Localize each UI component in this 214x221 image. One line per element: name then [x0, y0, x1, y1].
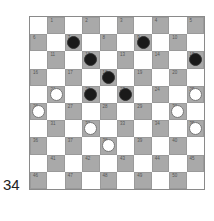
- light-square: [100, 17, 117, 34]
- black-man-icon[interactable]: [84, 88, 97, 101]
- square-7[interactable]: 7: [65, 34, 82, 51]
- light-square: [187, 34, 204, 51]
- black-man-icon[interactable]: [84, 53, 97, 66]
- square-18[interactable]: 18: [100, 69, 117, 86]
- light-square: [47, 69, 64, 86]
- square-23[interactable]: 23: [117, 86, 134, 103]
- square-33[interactable]: 33: [117, 120, 134, 137]
- square-6[interactable]: 6: [30, 34, 47, 51]
- square-28[interactable]: 28: [100, 103, 117, 120]
- light-square: [134, 86, 151, 103]
- black-man-icon[interactable]: [137, 36, 150, 49]
- light-square: [82, 34, 99, 51]
- light-square: [117, 172, 134, 189]
- square-8[interactable]: 8: [100, 34, 117, 51]
- square-31[interactable]: 31: [47, 120, 64, 137]
- white-man-icon[interactable]: [84, 122, 97, 135]
- square-16[interactable]: 16: [30, 69, 47, 86]
- square-number: 19: [137, 71, 142, 76]
- square-21[interactable]: 21: [47, 86, 64, 103]
- square-13[interactable]: 13: [117, 51, 134, 68]
- square-36[interactable]: 36: [30, 137, 47, 154]
- square-24[interactable]: 24: [152, 86, 169, 103]
- light-square: [100, 120, 117, 137]
- light-square: [82, 103, 99, 120]
- square-11[interactable]: 11: [47, 51, 64, 68]
- square-number: 11: [50, 53, 55, 58]
- square-20[interactable]: 20: [169, 69, 186, 86]
- white-man-icon[interactable]: [32, 105, 45, 118]
- square-14[interactable]: 14: [152, 51, 169, 68]
- white-man-icon[interactable]: [189, 122, 202, 135]
- light-square: [100, 86, 117, 103]
- square-48[interactable]: 48: [100, 172, 117, 189]
- light-square: [82, 137, 99, 154]
- light-square: [65, 155, 82, 172]
- square-9[interactable]: 9: [134, 34, 151, 51]
- square-3[interactable]: 3: [117, 17, 134, 34]
- square-number: 36: [33, 139, 38, 144]
- square-number: 27: [68, 105, 73, 110]
- square-number: 3: [120, 19, 123, 24]
- square-49[interactable]: 49: [134, 172, 151, 189]
- square-30[interactable]: 30: [169, 103, 186, 120]
- light-square: [152, 172, 169, 189]
- light-square: [187, 137, 204, 154]
- square-39[interactable]: 39: [134, 137, 151, 154]
- square-42[interactable]: 42: [82, 155, 99, 172]
- black-man-icon[interactable]: [102, 71, 115, 84]
- square-2[interactable]: 2: [82, 17, 99, 34]
- light-square: [117, 103, 134, 120]
- square-40[interactable]: 40: [169, 137, 186, 154]
- white-man-icon[interactable]: [50, 88, 63, 101]
- light-square: [187, 103, 204, 120]
- square-number: 6: [33, 36, 36, 41]
- square-41[interactable]: 41: [47, 155, 64, 172]
- square-37[interactable]: 37: [65, 137, 82, 154]
- light-square: [134, 51, 151, 68]
- white-man-icon[interactable]: [189, 88, 202, 101]
- square-12[interactable]: 12: [82, 51, 99, 68]
- light-square: [152, 34, 169, 51]
- square-4[interactable]: 4: [152, 17, 169, 34]
- light-square: [152, 103, 169, 120]
- square-number: 8: [103, 36, 106, 41]
- square-32[interactable]: 32: [82, 120, 99, 137]
- square-5[interactable]: 5: [187, 17, 204, 34]
- square-35[interactable]: 35: [187, 120, 204, 137]
- square-22[interactable]: 22: [82, 86, 99, 103]
- light-square: [47, 172, 64, 189]
- square-17[interactable]: 17: [65, 69, 82, 86]
- square-34[interactable]: 34: [152, 120, 169, 137]
- square-number: 45: [190, 157, 195, 162]
- square-25[interactable]: 25: [187, 86, 204, 103]
- light-square: [65, 17, 82, 34]
- square-number: 47: [68, 174, 73, 179]
- square-10[interactable]: 10: [169, 34, 186, 51]
- white-man-icon[interactable]: [102, 139, 115, 152]
- black-man-icon[interactable]: [67, 36, 80, 49]
- square-number: 46: [33, 174, 38, 179]
- square-44[interactable]: 44: [152, 155, 169, 172]
- square-1[interactable]: 1: [47, 17, 64, 34]
- square-19[interactable]: 19: [134, 69, 151, 86]
- square-47[interactable]: 47: [65, 172, 82, 189]
- black-man-icon[interactable]: [189, 53, 202, 66]
- black-man-icon[interactable]: [119, 88, 132, 101]
- light-square: [82, 69, 99, 86]
- square-29[interactable]: 29: [134, 103, 151, 120]
- light-square: [65, 86, 82, 103]
- light-square: [30, 155, 47, 172]
- square-number: 34: [155, 122, 160, 127]
- square-43[interactable]: 43: [117, 155, 134, 172]
- square-45[interactable]: 45: [187, 155, 204, 172]
- square-number: 43: [120, 157, 125, 162]
- square-26[interactable]: 26: [30, 103, 47, 120]
- square-38[interactable]: 38: [100, 137, 117, 154]
- square-15[interactable]: 15: [187, 51, 204, 68]
- light-square: [47, 137, 64, 154]
- white-man-icon[interactable]: [171, 105, 184, 118]
- square-50[interactable]: 50: [169, 172, 186, 189]
- square-27[interactable]: 27: [65, 103, 82, 120]
- square-46[interactable]: 46: [30, 172, 47, 189]
